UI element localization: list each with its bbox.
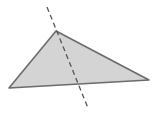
diagram-canvas	[0, 0, 160, 119]
geometry-diagram	[0, 0, 160, 119]
triangle	[9, 31, 149, 88]
